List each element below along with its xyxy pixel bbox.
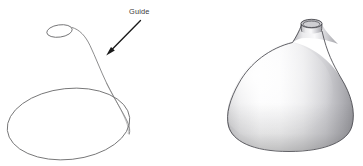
- profile-guide-curve: [72, 27, 130, 134]
- vase-body-highlight: [217, 40, 358, 154]
- figure-svg: Guide: [0, 0, 363, 166]
- base-circle-ellipse: [4, 82, 134, 165]
- wireframe-guide-diagram: Guide: [4, 7, 150, 166]
- profile-guide-curve-tail: [107, 83, 129, 134]
- shaded-vase-render: [217, 19, 358, 154]
- vase-rim-inner-edge: [303, 21, 320, 27]
- guide-callout-arrow-line: [110, 21, 141, 52]
- figure-canvas: Guide: [0, 0, 363, 166]
- top-rim-ellipse: [46, 23, 73, 39]
- guide-label: Guide: [129, 7, 149, 16]
